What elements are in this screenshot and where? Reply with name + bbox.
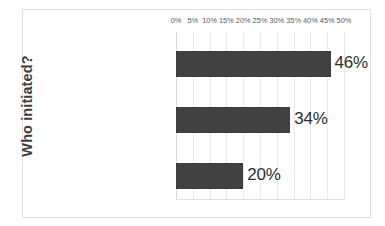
chart-title bbox=[22, 0, 371, 1]
x-tick-label: 20% bbox=[236, 15, 251, 26]
x-tick-label: 40% bbox=[303, 15, 318, 26]
data-label: 46% bbox=[335, 54, 368, 72]
bar[interactable] bbox=[176, 51, 331, 77]
x-tick-label: 5% bbox=[187, 15, 198, 26]
bar-chart: Who initiated? 0%5%10%15%20%25%30%35%40%… bbox=[0, 0, 385, 226]
data-label: 34% bbox=[294, 110, 327, 128]
bar[interactable] bbox=[176, 107, 290, 133]
x-tick-label: 35% bbox=[286, 15, 301, 26]
y-axis-title: Who initiated? bbox=[19, 26, 35, 186]
x-tick-label: 50% bbox=[337, 15, 352, 26]
x-tick-label: 10% bbox=[202, 15, 217, 26]
x-tick-label: 0% bbox=[171, 15, 182, 26]
x-tick-label: 15% bbox=[219, 15, 234, 26]
x-axis-tick-labels: 0%5%10%15%20%25%30%35%40%45%50% bbox=[176, 15, 344, 29]
x-tick-label: 30% bbox=[269, 15, 284, 26]
bar[interactable] bbox=[176, 163, 243, 189]
x-axis-baseline bbox=[176, 199, 345, 200]
x-tick-label: 45% bbox=[320, 15, 335, 26]
x-tick-label: 25% bbox=[253, 15, 268, 26]
data-label: 20% bbox=[247, 166, 280, 184]
